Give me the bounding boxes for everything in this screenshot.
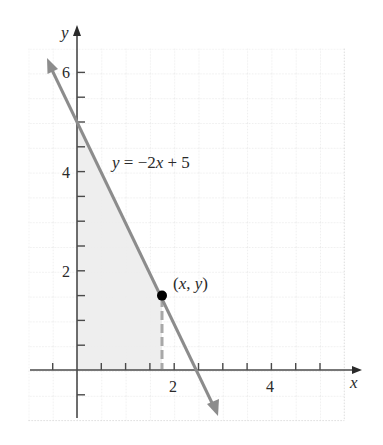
y-tick-label-6: 6 xyxy=(62,64,70,81)
x-tick-label-4: 4 xyxy=(266,378,274,395)
x-axis-label: x xyxy=(349,373,358,392)
x-tick-label-2: 2 xyxy=(169,378,177,395)
y-tick-label-4: 4 xyxy=(62,164,70,181)
point-label: (x, y) xyxy=(173,274,208,293)
chart-canvas: 2 4 2 4 6 x y y = −2x + 5 (x, y) xyxy=(0,0,383,445)
equation-label: y = −2x + 5 xyxy=(110,153,190,172)
y-tick-label-2: 2 xyxy=(62,263,70,280)
y-axis-label: y xyxy=(59,23,69,42)
y-axis-arrow-icon xyxy=(73,25,81,36)
grid xyxy=(28,49,344,421)
point-marker xyxy=(157,291,167,301)
